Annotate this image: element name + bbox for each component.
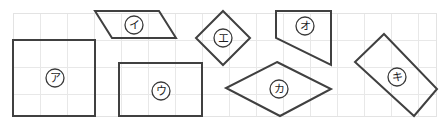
shape-label-text: キ xyxy=(392,71,403,84)
shape-オ: オ xyxy=(276,11,331,65)
figure-canvas: アイウエオカキ xyxy=(0,0,443,129)
shape-label-text: ア xyxy=(50,72,61,85)
shape-イ: イ xyxy=(95,11,176,38)
shape-カ: カ xyxy=(226,62,331,116)
shapes-figure: アイウエオカキ xyxy=(0,0,443,129)
shape-エ: エ xyxy=(196,11,250,65)
shape-label-text: カ xyxy=(274,83,285,96)
shape-label-text: ウ xyxy=(156,85,167,98)
shape-ウ: ウ xyxy=(119,63,202,116)
shapes-group: アイウエオカキ xyxy=(13,11,437,116)
shape-ア: ア xyxy=(13,40,95,116)
shape-キ: キ xyxy=(355,34,437,116)
shape-label-text: イ xyxy=(129,19,140,32)
shape-label-text: オ xyxy=(300,20,311,33)
shape-label-text: エ xyxy=(218,32,229,45)
